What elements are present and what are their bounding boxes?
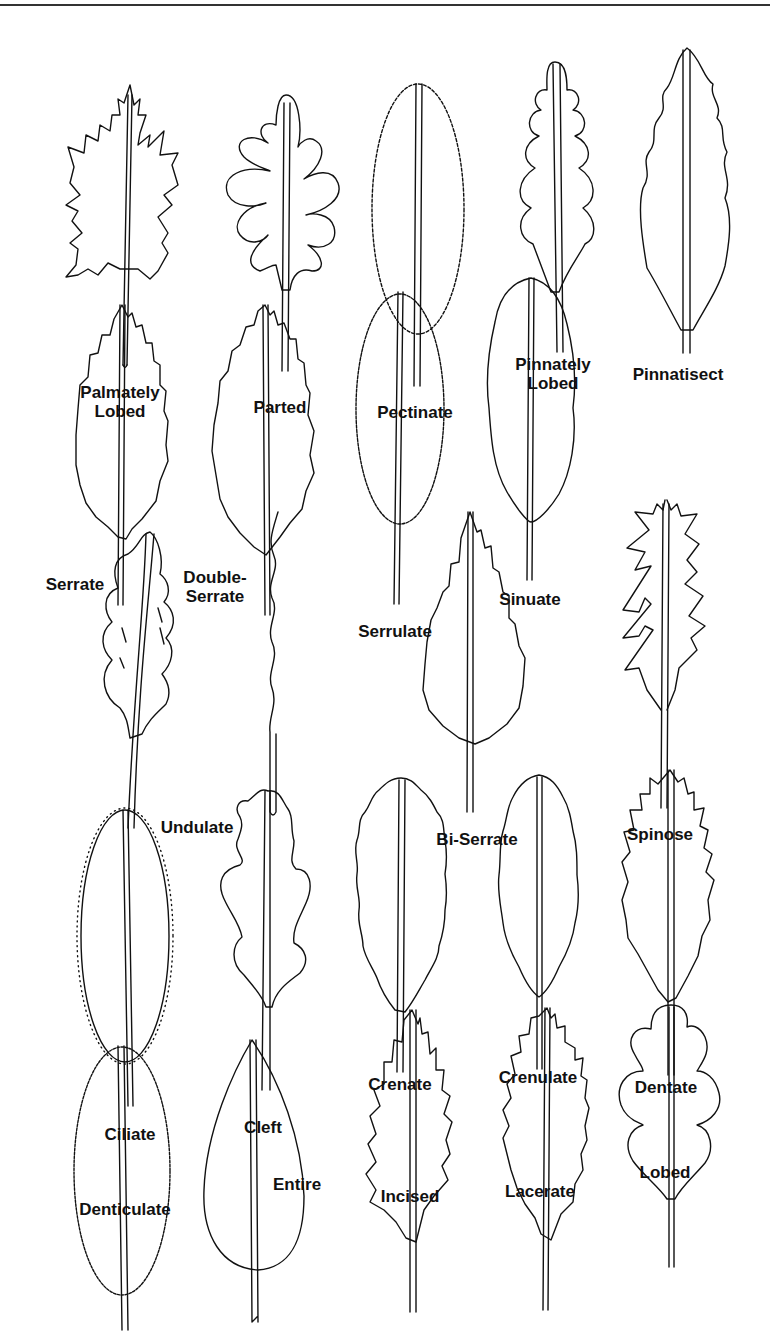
label-line: Pectinate [377, 403, 453, 422]
label-double-serrate: Double-Serrate [183, 568, 246, 606]
label-line: Entire [273, 1175, 321, 1194]
label-line: Parted [254, 398, 307, 417]
label-undulate: Undulate [161, 818, 234, 837]
label-dentate: Dentate [635, 1078, 697, 1097]
label-line: Denticulate [79, 1200, 171, 1219]
label-line: Serrate [183, 587, 246, 606]
label-sinuate: Sinuate [499, 590, 560, 609]
label-pinnatisect: Pinnatisect [633, 365, 724, 384]
label-bi-serrate: Bi-Serrate [436, 830, 517, 849]
label-line: Palmately [80, 383, 159, 402]
label-crenulate: Crenulate [499, 1068, 577, 1087]
leaf-spinose-illustration [615, 500, 710, 815]
leaf-denticulate-illustration [68, 1040, 178, 1335]
label-line: Serrulate [358, 622, 432, 641]
label-entire: Entire [273, 1175, 321, 1194]
label-line: Cleft [244, 1118, 282, 1137]
label-line: Ciliate [104, 1125, 155, 1144]
label-line: Crenulate [499, 1068, 577, 1087]
label-ciliate: Ciliate [104, 1125, 155, 1144]
label-crenate: Crenate [368, 1075, 431, 1094]
label-parted: Parted [254, 398, 307, 417]
label-lobed: Lobed [640, 1163, 691, 1182]
label-line: Spinose [627, 825, 693, 844]
label-line: Pinnately [515, 355, 591, 374]
label-line: Incised [381, 1187, 440, 1206]
leaf-lobed-illustration [615, 1005, 725, 1285]
label-line: Sinuate [499, 590, 560, 609]
label-spinose: Spinose [627, 825, 693, 844]
label-line: Crenate [368, 1075, 431, 1094]
label-denticulate: Denticulate [79, 1200, 171, 1219]
label-lacerate: Lacerate [505, 1182, 575, 1201]
top-border-line [0, 4, 770, 6]
label-cleft: Cleft [244, 1118, 282, 1137]
leaf-undulate-illustration [88, 528, 188, 833]
label-line: Serrate [46, 575, 105, 594]
label-pinnately-lobed: PinnatelyLobed [515, 355, 591, 393]
label-line: Bi-Serrate [436, 830, 517, 849]
label-pectinate: Pectinate [377, 403, 453, 422]
leaf-undulate-side-illustration [258, 512, 288, 827]
label-serrulate: Serrulate [358, 622, 432, 641]
label-line: Lobed [80, 402, 159, 421]
label-incised: Incised [381, 1187, 440, 1206]
label-line: Dentate [635, 1078, 697, 1097]
label-palmately-lobed: PalmatelyLobed [80, 383, 159, 421]
label-line: Pinnatisect [633, 365, 724, 384]
label-line: Undulate [161, 818, 234, 837]
leaf-pinnatisect-illustration [635, 48, 735, 363]
label-line: Lobed [515, 374, 591, 393]
leaf-lacerate-illustration [495, 1008, 595, 1318]
label-line: Double- [183, 568, 246, 587]
label-line: Lobed [640, 1163, 691, 1182]
label-line: Lacerate [505, 1182, 575, 1201]
label-serrate: Serrate [46, 575, 105, 594]
leaf-incised-illustration [362, 1010, 462, 1320]
